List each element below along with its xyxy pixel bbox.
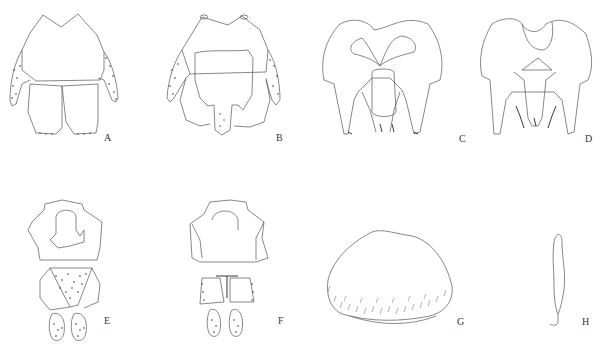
- panel-label-c: C: [459, 133, 466, 144]
- panel-g: G: [320, 230, 470, 347]
- panel-label-e: E: [104, 315, 110, 326]
- panel-h-drawing: [540, 230, 604, 347]
- panel-c-drawing: [310, 0, 470, 150]
- panel-a-drawing: [0, 0, 130, 150]
- panel-label-g: G: [457, 316, 464, 327]
- panel-label-b: B: [276, 132, 283, 143]
- panel-e: E: [0, 180, 130, 347]
- panel-h: H: [540, 230, 604, 347]
- panel-b: B: [150, 0, 290, 150]
- panel-label-h: H: [582, 316, 589, 327]
- panel-d: D: [470, 0, 604, 150]
- panel-label-f: F: [278, 315, 284, 326]
- panel-b-drawing: [150, 0, 290, 150]
- panel-f: F: [170, 180, 300, 347]
- panel-label-d: D: [585, 133, 592, 144]
- panel-d-drawing: [470, 0, 604, 150]
- panel-g-drawing: [320, 230, 470, 347]
- panel-c: C: [310, 0, 470, 150]
- panel-label-a: A: [104, 132, 111, 143]
- panel-e-drawing: [0, 180, 130, 347]
- panel-a: A: [0, 0, 130, 150]
